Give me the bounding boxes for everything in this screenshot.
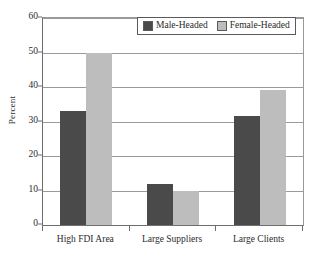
y-axis-tick-label: 40 xyxy=(16,81,38,91)
bar-male-headed xyxy=(147,184,173,225)
legend-item-male-headed: Male-Headed xyxy=(143,21,208,31)
legend-item-female-headed: Female-Headed xyxy=(217,21,290,31)
y-axis-tick-label: 50 xyxy=(16,47,38,57)
y-axis-tick-label: 20 xyxy=(16,150,38,160)
legend-label: Male-Headed xyxy=(156,21,208,31)
bar-chart-figure: Percent 0102030405060 High FDI AreaLarge… xyxy=(0,0,317,260)
x-axis-tick-mark xyxy=(302,225,303,231)
y-axis-tick-label: 10 xyxy=(16,185,38,195)
bar-female-headed xyxy=(260,90,286,225)
plot-area xyxy=(42,17,304,226)
y-axis-tick-labels: 0102030405060 xyxy=(14,0,38,260)
bar-male-headed xyxy=(60,111,86,225)
y-axis-tick-mark xyxy=(38,155,42,156)
bar-male-headed xyxy=(234,116,260,225)
legend-swatch-icon xyxy=(143,21,153,31)
y-axis-tick-mark xyxy=(38,51,42,52)
y-axis-tick-mark xyxy=(38,86,42,87)
bar-series-group xyxy=(43,18,303,225)
y-axis-tick-mark xyxy=(38,120,42,121)
x-axis-category-label: High FDI Area xyxy=(57,234,114,244)
y-axis-tick-label: 0 xyxy=(16,219,38,229)
bar-female-headed xyxy=(86,53,112,226)
y-axis-tick-mark xyxy=(38,224,42,225)
x-axis-tick-mark xyxy=(42,225,43,231)
x-axis-tick-mark xyxy=(215,225,216,231)
y-axis-tick-label: 60 xyxy=(16,12,38,22)
y-axis-tick-label: 30 xyxy=(16,116,38,126)
legend: Male-HeadedFemale-Headed xyxy=(137,17,296,35)
x-axis-tick-mark xyxy=(129,225,130,231)
y-axis-tick-mark xyxy=(38,17,42,18)
legend-label: Female-Headed xyxy=(230,21,290,31)
x-axis-category-label: Large Clients xyxy=(233,234,284,244)
legend-swatch-icon xyxy=(217,21,227,31)
bar-female-headed xyxy=(173,191,199,226)
x-axis-category-label: Large Suppliers xyxy=(142,234,202,244)
y-axis-tick-mark xyxy=(38,189,42,190)
